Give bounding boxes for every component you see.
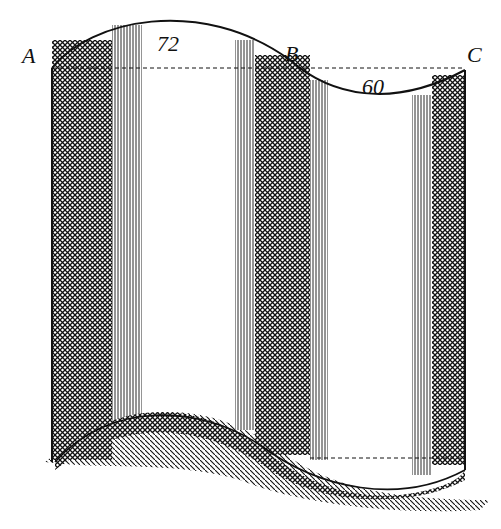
wave-surface-drawing (0, 0, 501, 529)
engraving-figure: A 72 B 60 C (0, 0, 501, 529)
point-c-label: C (467, 44, 482, 66)
point-b-label: B (285, 43, 298, 65)
arc-lower-value-label: 60 (362, 76, 384, 98)
point-a-label: A (22, 45, 35, 67)
arc-upper-value-label: 72 (157, 33, 179, 55)
